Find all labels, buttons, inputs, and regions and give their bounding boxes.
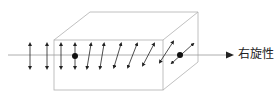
axis-arrowhead <box>226 52 234 59</box>
dextrorotatory-label: 右旋性 <box>238 47 274 61</box>
axis-point-entry <box>72 53 78 59</box>
axis-point-exit <box>177 52 183 58</box>
diagram: 右旋性 <box>0 0 279 96</box>
medium-box <box>54 12 198 90</box>
